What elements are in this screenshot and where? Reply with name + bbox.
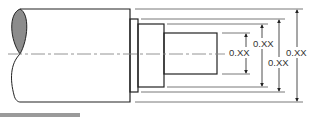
collar (130, 19, 138, 92)
main-shaft (12, 9, 130, 102)
bottom-bar (0, 113, 80, 117)
dim-label-pin: 0.XX (229, 47, 250, 58)
step (138, 24, 164, 87)
extension-lines (135, 9, 303, 102)
dim-label-collar: 0.XX (268, 57, 289, 68)
pin (164, 33, 217, 74)
break-line (12, 54, 20, 102)
stepped-shaft-drawing: 0.XX 0.XX 0.XX 0.XX (0, 0, 310, 118)
dim-label-step: 0.XX (253, 38, 274, 49)
dim-label-shaft: 0.XX (286, 47, 307, 58)
break-section-fill (12, 9, 27, 54)
